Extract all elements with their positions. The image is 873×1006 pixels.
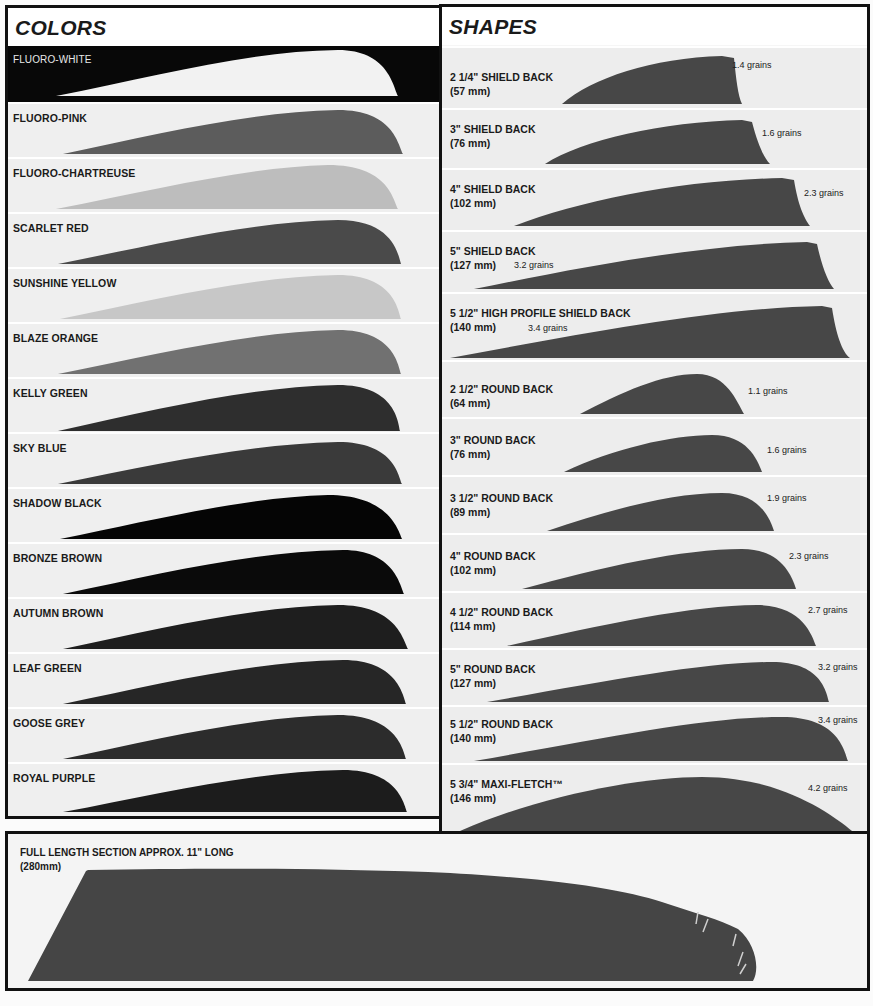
shape-weight: 3.4 grains xyxy=(818,715,858,725)
color-item-blaze-orange: BLAZE ORANGE xyxy=(8,322,445,377)
shape-label-group: 4" ROUND BACK (102 mm) xyxy=(450,549,535,577)
shape-size: (114 mm) xyxy=(450,619,553,633)
shape-label-group: 4" SHIELD BACK (102 mm) xyxy=(450,182,536,210)
shape-weight: 1.6 grains xyxy=(762,128,802,138)
shape-name: 2 1/2" ROUND BACK xyxy=(450,382,553,396)
color-label: FLUORO-WHITE xyxy=(13,54,91,65)
shape-name: 3 1/2" ROUND BACK xyxy=(450,491,553,505)
shape-size: (146 mm) xyxy=(450,791,563,805)
color-label: SUNSHINE YELLOW xyxy=(13,277,116,289)
shape-weight: 1.6 grains xyxy=(767,445,807,455)
color-item-fluoro-white: FLUORO-WHITE xyxy=(8,46,445,102)
shape-item-2-5-round-back: 2 1/2" ROUND BACK (64 mm) 1.1 grains xyxy=(442,360,867,417)
shape-item-5-75-maxi-fletch: 5 3/4" MAXI-FLETCH™ (146 mm) 4.2 grains xyxy=(442,763,867,837)
shape-label-group: 5 3/4" MAXI-FLETCH™ (146 mm) xyxy=(450,777,563,805)
shape-weight: 3.2 grains xyxy=(514,260,554,270)
full-length-label-group: FULL LENGTH SECTION APPROX. 11" LONG (28… xyxy=(20,846,234,874)
color-label: SKY BLUE xyxy=(13,442,67,454)
shape-label-group: 2 1/4" SHIELD BACK (57 mm) xyxy=(450,70,553,98)
shape-weight: 4.2 grains xyxy=(808,783,848,793)
shapes-title: SHAPES xyxy=(442,7,867,45)
shape-item-4-5-round-back: 4 1/2" ROUND BACK (114 mm) 2.7 grains xyxy=(442,591,867,648)
shape-size: (102 mm) xyxy=(450,196,536,210)
color-item-fluoro-pink: FLUORO-PINK xyxy=(8,102,445,157)
color-item-royal-purple: ROYAL PURPLE xyxy=(8,762,445,816)
shape-weight: 3.4 grains xyxy=(528,323,568,333)
shape-label-group: 3 1/2" ROUND BACK (89 mm) xyxy=(450,491,553,519)
colors-title: COLORS xyxy=(8,8,445,47)
shape-size: (127 mm) xyxy=(450,676,535,690)
color-label: BRONZE BROWN xyxy=(13,552,102,564)
color-label: AUTUMN BROWN xyxy=(13,607,103,619)
shape-size: (76 mm) xyxy=(450,136,536,150)
shape-name: 5" ROUND BACK xyxy=(450,662,535,676)
color-item-goose-grey: GOOSE GREY xyxy=(8,707,445,762)
shape-item-5-shield-back: 5" SHIELD BACK (127 mm) 3.2 grains xyxy=(442,230,867,292)
shape-name: 3" SHIELD BACK xyxy=(450,122,536,136)
color-label: ROYAL PURPLE xyxy=(13,772,95,784)
shape-label-group: 5" ROUND BACK (127 mm) xyxy=(450,662,535,690)
color-label: BLAZE ORANGE xyxy=(13,332,98,344)
color-item-bronze-brown: BRONZE BROWN xyxy=(8,542,445,597)
shape-size: (57 mm) xyxy=(450,84,553,98)
shape-size: (89 mm) xyxy=(450,505,553,519)
color-item-kelly-green: KELLY GREEN xyxy=(8,377,445,432)
shape-name: 4 1/2" ROUND BACK xyxy=(450,605,553,619)
shape-item-5-round-back: 5" ROUND BACK (127 mm) 3.2 grains xyxy=(442,648,867,705)
shape-item-3-shield-back: 3" SHIELD BACK (76 mm) 1.6 grains xyxy=(442,108,867,168)
shape-label-group: 4 1/2" ROUND BACK (114 mm) xyxy=(450,605,553,633)
shape-name: 5 1/2" HIGH PROFILE SHIELD BACK xyxy=(450,306,631,320)
shape-item-3-round-back: 3" ROUND BACK (76 mm) 1.6 grains xyxy=(442,417,867,475)
shape-item-3-5-round-back: 3 1/2" ROUND BACK (89 mm) 1.9 grains xyxy=(442,475,867,533)
color-label: SHADOW BLACK xyxy=(13,497,102,509)
shape-name: 4" SHIELD BACK xyxy=(450,182,536,196)
shape-item-2-25-shield-back: 2 1/4" SHIELD BACK (57 mm) 1.4 grains xyxy=(442,46,867,108)
color-label: KELLY GREEN xyxy=(13,387,88,399)
shape-label-group: 5 1/2" ROUND BACK (140 mm) xyxy=(450,717,553,745)
shape-weight: 1.1 grains xyxy=(748,386,788,396)
shape-item-5-5-high-profile-shield-back: 5 1/2" HIGH PROFILE SHIELD BACK (140 mm)… xyxy=(442,292,867,360)
shape-label-group: 3" ROUND BACK (76 mm) xyxy=(450,433,535,461)
shape-label-group: 3" SHIELD BACK (76 mm) xyxy=(450,122,536,150)
shape-weight: 2.3 grains xyxy=(789,551,829,561)
shape-label-group: 2 1/2" ROUND BACK (64 mm) xyxy=(450,382,553,410)
shape-size: (102 mm) xyxy=(450,563,535,577)
shape-size: (76 mm) xyxy=(450,447,535,461)
color-label: FLUORO-CHARTREUSE xyxy=(13,167,135,179)
shape-name: 5 3/4" MAXI-FLETCH™ xyxy=(450,777,563,791)
color-item-shadow-black: SHADOW BLACK xyxy=(8,487,445,542)
color-label: GOOSE GREY xyxy=(13,717,85,729)
shape-name: 4" ROUND BACK xyxy=(450,549,535,563)
shape-name: 5" SHIELD BACK xyxy=(450,244,536,258)
shape-weight: 1.9 grains xyxy=(767,493,807,503)
shape-item-4-round-back: 4" ROUND BACK (102 mm) 2.3 grains xyxy=(442,533,867,591)
color-item-sunshine-yellow: SUNSHINE YELLOW xyxy=(8,267,445,322)
color-item-leaf-green: LEAF GREEN xyxy=(8,652,445,707)
full-length-panel: FULL LENGTH SECTION APPROX. 11" LONG (28… xyxy=(5,831,870,991)
shape-size: (140 mm) xyxy=(450,731,553,745)
shape-name: 3" ROUND BACK xyxy=(450,433,535,447)
shape-name: 2 1/4" SHIELD BACK xyxy=(450,70,553,84)
shapes-panel: SHAPES 2 1/4" SHIELD BACK (57 mm) 1.4 gr… xyxy=(439,4,870,834)
shape-name: 5 1/2" ROUND BACK xyxy=(450,717,553,731)
color-label: LEAF GREEN xyxy=(13,662,82,674)
shape-item-4-shield-back: 4" SHIELD BACK (102 mm) 2.3 grains xyxy=(442,168,867,230)
color-label: SCARLET RED xyxy=(13,222,89,234)
shape-weight: 3.2 grains xyxy=(818,662,858,672)
color-item-autumn-brown: AUTUMN BROWN xyxy=(8,597,445,652)
colors-panel: COLORS FLUORO-WHITE FLUORO-PINK FLUORO-C… xyxy=(5,5,448,819)
feather-sky-blue-icon xyxy=(8,434,445,489)
shape-weight: 1.4 grains xyxy=(732,60,772,70)
full-length-size: (280mm) xyxy=(20,860,234,874)
color-label: FLUORO-PINK xyxy=(13,112,87,124)
shape-weight: 2.7 grains xyxy=(808,605,848,615)
shape-weight: 2.3 grains xyxy=(804,188,844,198)
full-length-title: FULL LENGTH SECTION APPROX. 11" LONG xyxy=(20,846,234,860)
shape-size: (64 mm) xyxy=(450,396,553,410)
color-item-sky-blue: SKY BLUE xyxy=(8,432,445,487)
color-item-scarlet-red: SCARLET RED xyxy=(8,212,445,267)
shape-item-5-5-round-back: 5 1/2" ROUND BACK (140 mm) 3.4 grains xyxy=(442,705,867,763)
color-item-fluoro-chartreuse: FLUORO-CHARTREUSE xyxy=(8,157,445,212)
